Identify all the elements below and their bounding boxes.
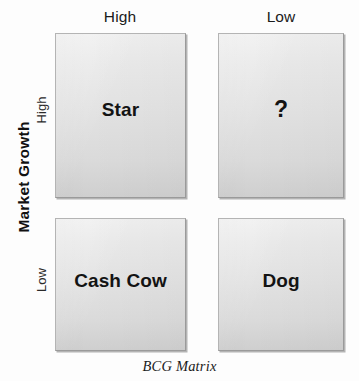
- quadrant-question-mark[interactable]: ?: [218, 33, 344, 198]
- quadrant-question-mark-label: ?: [219, 96, 343, 123]
- row-label-low: Low: [33, 245, 51, 315]
- quadrant-dog-label: Dog: [219, 270, 343, 292]
- quadrant-cash-cow[interactable]: Cash Cow: [55, 218, 186, 351]
- column-header-low: Low: [218, 6, 344, 28]
- quadrant-star-label: Star: [56, 99, 185, 121]
- row-label-high: High: [33, 75, 51, 145]
- quadrant-star[interactable]: Star: [55, 33, 186, 198]
- diagram-caption: BCG Matrix: [0, 358, 359, 375]
- quadrant-dog[interactable]: Dog: [218, 218, 344, 351]
- bcg-matrix-diagram: High Low Market Growth High Low Star ? C…: [0, 0, 359, 381]
- scan-bleedthrough-artifact: [223, 50, 341, 65]
- column-header-high: High: [55, 6, 185, 28]
- quadrant-cash-cow-label: Cash Cow: [56, 270, 185, 292]
